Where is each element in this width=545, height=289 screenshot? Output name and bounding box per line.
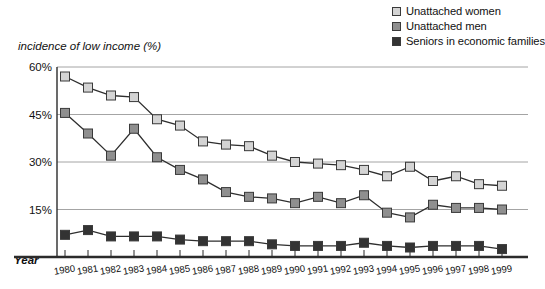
data-point-marker[interactable] bbox=[452, 172, 461, 181]
data-point-marker[interactable] bbox=[222, 188, 231, 197]
x-tick-label: 1983 bbox=[122, 262, 145, 276]
data-point-marker[interactable] bbox=[130, 232, 139, 241]
data-point-marker[interactable] bbox=[84, 226, 93, 235]
data-point-marker[interactable] bbox=[245, 192, 254, 201]
data-point-marker[interactable] bbox=[176, 121, 185, 130]
x-tick-label: 1991 bbox=[306, 262, 329, 276]
data-point-marker[interactable] bbox=[153, 153, 162, 162]
x-tick-label: 1989 bbox=[260, 262, 283, 276]
data-point-marker[interactable] bbox=[291, 241, 300, 250]
data-point-marker[interactable] bbox=[268, 240, 277, 249]
data-point-marker[interactable] bbox=[245, 237, 254, 246]
y-axis-ticks: 60%45%30%15% bbox=[29, 61, 52, 216]
data-point-marker[interactable] bbox=[498, 205, 507, 214]
x-tick-label: 1984 bbox=[145, 262, 168, 276]
y-tick-label: 30% bbox=[29, 156, 52, 168]
data-point-marker[interactable] bbox=[314, 159, 323, 168]
y-tick-label: 45% bbox=[29, 109, 52, 121]
data-point-marker[interactable] bbox=[360, 238, 369, 247]
gridlines bbox=[57, 67, 528, 210]
x-tick-label: 1982 bbox=[99, 262, 122, 276]
x-tick-label: 1987 bbox=[214, 262, 237, 276]
data-point-marker[interactable] bbox=[130, 93, 139, 102]
data-point-marker[interactable] bbox=[176, 165, 185, 174]
x-tick-label: 1998 bbox=[467, 262, 490, 276]
data-point-marker[interactable] bbox=[199, 237, 208, 246]
data-point-marker[interactable] bbox=[153, 115, 162, 124]
data-point-marker[interactable] bbox=[475, 241, 484, 250]
data-point-marker[interactable] bbox=[452, 203, 461, 212]
data-point-marker[interactable] bbox=[268, 151, 277, 160]
data-point-marker[interactable] bbox=[337, 241, 346, 250]
x-tick-label: 1981 bbox=[76, 262, 99, 276]
data-point-marker[interactable] bbox=[314, 192, 323, 201]
x-tick-label: 1985 bbox=[168, 262, 191, 276]
data-point-marker[interactable] bbox=[383, 208, 392, 217]
data-point-marker[interactable] bbox=[406, 162, 415, 171]
x-tick-label: 1997 bbox=[444, 262, 467, 276]
data-point-marker[interactable] bbox=[429, 200, 438, 209]
y-tick-label: 60% bbox=[29, 61, 52, 73]
data-point-marker[interactable] bbox=[291, 199, 300, 208]
data-point-marker[interactable] bbox=[314, 241, 323, 250]
data-point-marker[interactable] bbox=[268, 194, 277, 203]
y-tick-label: 15% bbox=[29, 204, 52, 216]
data-point-marker[interactable] bbox=[360, 191, 369, 200]
data-point-marker[interactable] bbox=[107, 232, 116, 241]
x-tick-label: 1980 bbox=[53, 262, 76, 276]
data-point-marker[interactable] bbox=[406, 243, 415, 252]
data-point-marker[interactable] bbox=[84, 129, 93, 138]
data-point-marker[interactable] bbox=[498, 181, 507, 190]
data-point-marker[interactable] bbox=[61, 108, 70, 117]
x-tick-label: 1996 bbox=[421, 262, 444, 276]
x-tick-label: 1990 bbox=[283, 262, 306, 276]
data-point-marker[interactable] bbox=[176, 235, 185, 244]
x-tick-label: 1995 bbox=[398, 262, 421, 276]
data-point-marker[interactable] bbox=[383, 172, 392, 181]
data-point-marker[interactable] bbox=[429, 241, 438, 250]
data-point-marker[interactable] bbox=[475, 203, 484, 212]
x-tick-label: 1999 bbox=[490, 262, 513, 276]
data-point-marker[interactable] bbox=[291, 158, 300, 167]
data-point-marker[interactable] bbox=[383, 241, 392, 250]
data-point-marker[interactable] bbox=[130, 124, 139, 133]
data-point-marker[interactable] bbox=[475, 180, 484, 189]
x-tick-label: 1994 bbox=[375, 262, 398, 276]
x-tick-label: 1986 bbox=[191, 262, 214, 276]
x-axis-ticks: 1980198119821983198419851986198719881989… bbox=[53, 250, 513, 277]
data-point-marker[interactable] bbox=[222, 237, 231, 246]
data-point-marker[interactable] bbox=[61, 230, 70, 239]
data-point-marker[interactable] bbox=[429, 177, 438, 186]
data-point-marker[interactable] bbox=[107, 151, 116, 160]
data-point-marker[interactable] bbox=[406, 213, 415, 222]
data-point-marker[interactable] bbox=[84, 83, 93, 92]
data-point-marker[interactable] bbox=[222, 140, 231, 149]
data-point-marker[interactable] bbox=[337, 161, 346, 170]
data-point-marker[interactable] bbox=[199, 175, 208, 184]
data-point-marker[interactable] bbox=[337, 199, 346, 208]
data-point-marker[interactable] bbox=[245, 142, 254, 151]
data-point-marker[interactable] bbox=[61, 72, 70, 81]
x-tick-label: 1992 bbox=[329, 262, 352, 276]
data-point-marker[interactable] bbox=[452, 241, 461, 250]
data-point-marker[interactable] bbox=[360, 165, 369, 174]
data-series bbox=[61, 72, 507, 254]
data-point-marker[interactable] bbox=[107, 91, 116, 100]
x-tick-label: 1988 bbox=[237, 262, 260, 276]
data-point-marker[interactable] bbox=[498, 245, 507, 254]
data-point-marker[interactable] bbox=[153, 232, 162, 241]
x-tick-label: 1993 bbox=[352, 262, 375, 276]
data-point-marker[interactable] bbox=[199, 137, 208, 146]
